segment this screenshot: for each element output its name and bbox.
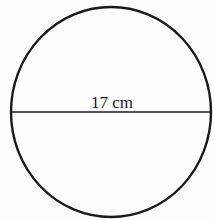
diagram-svg: 17 cm: [0, 0, 214, 220]
circle-diagram: 17 cm: [0, 0, 214, 220]
diameter-label: 17 cm: [91, 93, 133, 112]
